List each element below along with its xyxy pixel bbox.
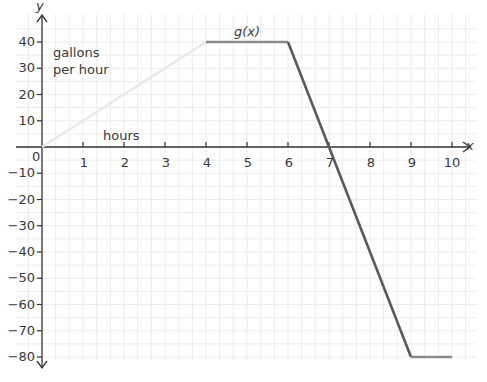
x-tick-label: 4 [203,156,211,169]
y-tick-label: −70 [8,324,35,337]
x-label: hours [103,129,140,142]
y-tick-label: −10 [8,166,35,179]
x-tick-label: 2 [121,156,129,169]
x-tick-label: 7 [326,156,334,169]
x-tick-label: 9 [408,156,416,169]
x-tick-label: 3 [162,156,170,169]
y-tick-label: 40 [18,35,35,48]
x-tick-label: 5 [244,156,252,169]
x-axis-name: x [466,139,474,152]
y-label-line2: per hour [53,63,109,76]
function-label: g(x) [234,25,260,38]
y-tick-label: 10 [18,114,35,127]
y-tick-label: −20 [8,193,35,206]
y-tick-label: −50 [8,271,35,284]
y-tick-label: −30 [8,219,35,232]
y-tick-label: −40 [8,245,35,258]
origin-label: 0 [32,150,40,163]
x-tick-label: 8 [367,156,375,169]
x-tick-label: 6 [285,156,293,169]
y-tick-label: −60 [8,298,35,311]
x-tick-label: 10 [444,156,461,169]
y-tick-label: 30 [18,61,35,74]
y-axis-name: y [36,0,44,12]
x-tick-label: 1 [80,156,88,169]
y-tick-label: 20 [18,88,35,101]
y-tick-label: −80 [8,350,35,363]
y-label-line1: gallons [53,46,99,59]
